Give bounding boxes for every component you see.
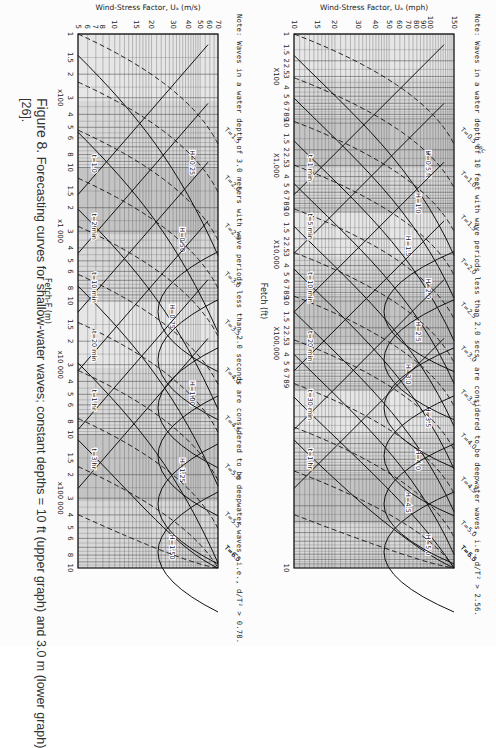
upper-note: Note: Waves in a water depth of 10 feet … [473, 14, 482, 616]
svg-text:6: 6 [282, 190, 290, 195]
svg-text:4: 4 [282, 174, 290, 179]
svg-text:t=2 min: t=2 min [90, 213, 98, 239]
svg-text:8: 8 [66, 419, 74, 423]
svg-text:H=1.25: H=1.25 [178, 458, 186, 483]
svg-text:t=5 min: t=5 min [306, 213, 314, 239]
svg-text:4: 4 [66, 513, 74, 518]
svg-text:X100,000: X100,000 [272, 327, 280, 361]
svg-text:5: 5 [282, 183, 290, 187]
svg-text:2: 2 [282, 237, 290, 241]
svg-text:6: 6 [66, 269, 74, 274]
svg-text:1: 1 [66, 32, 74, 36]
svg-text:5: 5 [66, 125, 74, 129]
svg-text:30: 30 [354, 20, 362, 29]
svg-text:8: 8 [66, 152, 74, 156]
svg-text:10: 10 [66, 430, 74, 439]
svg-text:8: 8 [98, 25, 106, 29]
svg-text:4: 4 [282, 263, 290, 268]
svg-text:x100: x100 [56, 89, 64, 107]
svg-text:40: 40 [184, 20, 192, 29]
svg-text:3: 3 [66, 95, 74, 99]
svg-text:X10,000: X10,000 [272, 240, 280, 269]
svg-text:t=1.0: t=1.0 [90, 155, 98, 173]
figure-label: Figure 8. [34, 98, 50, 153]
svg-text:3: 3 [66, 362, 74, 366]
svg-text:6: 6 [282, 279, 290, 284]
svg-text:10: 10 [66, 163, 74, 172]
svg-text:Wind-Stress Factor, Uₐ (mph): Wind-Stress Factor, Uₐ (mph) [320, 3, 428, 12]
svg-text:3: 3 [66, 496, 74, 500]
svg-text:60: 60 [205, 20, 213, 29]
svg-text:1.5: 1.5 [282, 311, 290, 322]
svg-text:t=1 hr: t=1 hr [90, 390, 98, 411]
svg-text:3: 3 [282, 341, 290, 345]
svg-text:40: 40 [371, 20, 379, 29]
svg-text:1.5: 1.5 [282, 44, 290, 55]
lower-note: Note: Waves in a water depth of 3.0 mete… [235, 14, 244, 643]
svg-text:4: 4 [66, 246, 74, 251]
svg-text:H=0.5 ft: H=0.5 ft [424, 150, 432, 178]
svg-text:4: 4 [282, 85, 290, 90]
svg-text:7: 7 [91, 25, 99, 29]
svg-text:2: 2 [282, 59, 290, 63]
svg-text:7: 7 [282, 107, 290, 111]
svg-text:50: 50 [196, 20, 204, 29]
svg-text:5: 5 [74, 25, 82, 29]
svg-text:3: 3 [66, 229, 74, 233]
svg-text:7: 7 [282, 196, 290, 200]
svg-text:t=10 min: t=10 min [306, 272, 314, 303]
svg-text:20: 20 [330, 20, 338, 29]
svg-text:6: 6 [66, 536, 74, 541]
svg-text:t=20 min: t=20 min [306, 331, 314, 362]
svg-text:1: 1 [282, 32, 290, 36]
svg-text:10: 10 [282, 119, 290, 128]
svg-text:1.5: 1.5 [66, 452, 74, 463]
svg-text:10: 10 [110, 20, 118, 29]
svg-text:10: 10 [282, 208, 290, 217]
svg-text:80: 80 [412, 20, 420, 29]
svg-text:5: 5 [282, 361, 290, 365]
svg-text:8: 8 [66, 286, 74, 290]
svg-text:t=1 min: t=1 min [306, 155, 314, 181]
svg-text:H=0.75: H=0.75 [168, 304, 176, 329]
svg-text:30: 30 [169, 20, 177, 29]
svg-text:1.5: 1.5 [282, 133, 290, 144]
svg-text:60: 60 [395, 20, 403, 29]
svg-text:10: 10 [66, 297, 74, 306]
chart-1: 11.5234568101.5234568101.5234568101.5234… [43, 3, 242, 612]
svg-text:3: 3 [282, 252, 290, 256]
svg-text:10: 10 [282, 564, 290, 573]
svg-text:6: 6 [282, 368, 290, 373]
svg-text:H=0.25: H=0.25 [188, 150, 196, 175]
svg-text:t=10 min: t=10 min [90, 272, 98, 303]
svg-text:10: 10 [282, 297, 290, 306]
svg-text:150: 150 [450, 16, 458, 29]
svg-text:8: 8 [66, 553, 74, 557]
svg-text:10: 10 [66, 564, 74, 573]
svg-text:x100 000: x100 000 [56, 482, 64, 515]
svg-text:6: 6 [66, 403, 74, 408]
svg-text:90: 90 [419, 20, 427, 29]
svg-text:X100: X100 [272, 67, 280, 85]
svg-text:2: 2 [282, 326, 290, 330]
svg-text:7: 7 [282, 285, 290, 289]
svg-text:3: 3 [282, 163, 290, 167]
svg-text:H=2.5: H=2.5 [414, 321, 422, 342]
svg-text:4: 4 [66, 379, 74, 384]
svg-text:70: 70 [404, 20, 412, 29]
svg-text:t=20 min: t=20 min [90, 331, 98, 362]
svg-text:3: 3 [282, 74, 290, 78]
caption-text: Forecasting curves for shallow-water wav… [34, 157, 48, 748]
svg-text:2: 2 [66, 472, 74, 476]
svg-text:t=3 hr: t=3 hr [90, 448, 98, 469]
svg-text:Fetch (ft): Fetch (ft) [259, 283, 268, 319]
svg-text:6: 6 [83, 25, 91, 30]
svg-text:1.5: 1.5 [66, 319, 74, 330]
svg-text:5: 5 [282, 94, 290, 98]
svg-text:1.5: 1.5 [66, 185, 74, 196]
svg-text:H=1.5: H=1.5 [404, 236, 412, 257]
svg-text:Wind-Stress Factor, Uₐ (m/s): Wind-Stress Factor, Uₐ (m/s) [95, 3, 200, 12]
svg-text:7: 7 [282, 374, 290, 378]
